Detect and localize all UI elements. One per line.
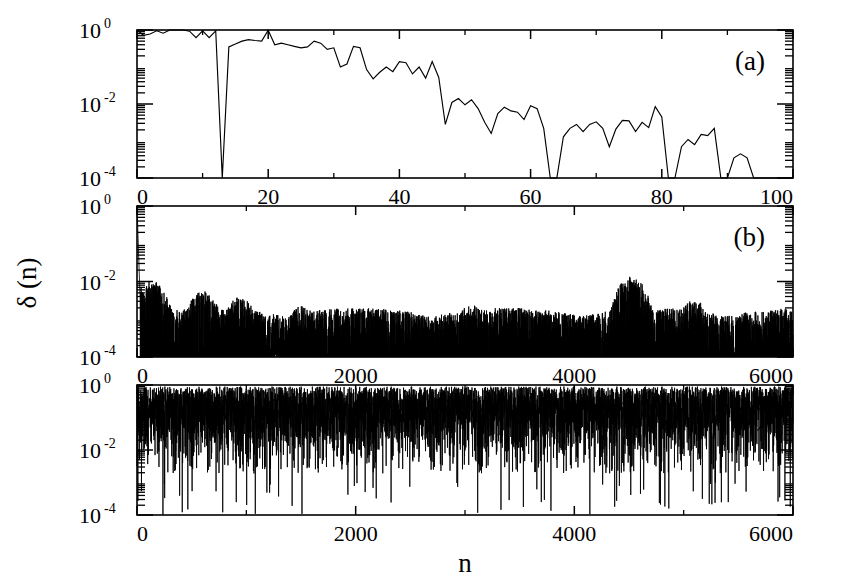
y-axis-title: δ (n) — [12, 258, 42, 309]
x-axis-title: n — [458, 548, 472, 578]
figure-root: 02040608010010010-210-4(a) 0200040006000… — [0, 0, 852, 588]
axis-titles: δ (n)n — [0, 0, 852, 588]
